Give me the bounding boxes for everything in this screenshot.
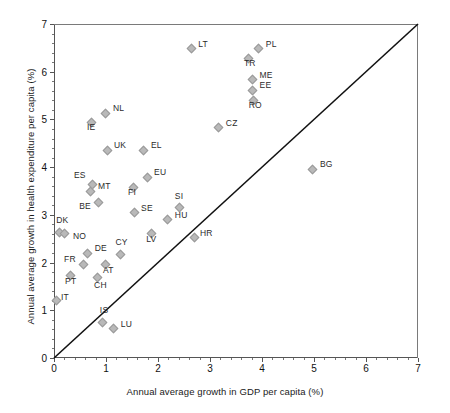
x-minor-tick bbox=[335, 358, 336, 360]
data-point-label-CY: CY bbox=[116, 237, 128, 247]
data-point-label-FR: FR bbox=[64, 254, 76, 264]
scatter-chart-figure: Annual average growth in health expendit… bbox=[0, 0, 450, 413]
x-tick-label-0: 0 bbox=[51, 363, 57, 374]
x-tick-label-4: 4 bbox=[259, 363, 265, 374]
y-tick-label-2: 2 bbox=[41, 257, 47, 268]
data-point-label-LT: LT bbox=[198, 39, 208, 49]
x-minor-tick bbox=[96, 358, 97, 360]
data-point-label-LU: LU bbox=[121, 319, 132, 329]
x-axis-title: Annual average growth in GDP per capita … bbox=[0, 386, 450, 397]
data-point-label-IE: IE bbox=[87, 122, 95, 132]
x-minor-tick bbox=[345, 358, 346, 360]
data-point-label-HR: HR bbox=[200, 228, 213, 238]
x-minor-tick bbox=[356, 358, 357, 360]
data-point-label-DE: DE bbox=[95, 243, 107, 253]
data-point-label-CH: CH bbox=[94, 280, 107, 290]
x-tick-label-3: 3 bbox=[207, 363, 213, 374]
x-tick-label-7: 7 bbox=[415, 363, 421, 374]
data-point-label-NL: NL bbox=[113, 103, 124, 113]
y-tick-label-0: 0 bbox=[41, 353, 47, 364]
x-tick-label-5: 5 bbox=[311, 363, 317, 374]
y-tick-label-5: 5 bbox=[41, 114, 47, 125]
x-minor-tick bbox=[376, 358, 377, 360]
data-point-label-IS: IS bbox=[100, 305, 108, 315]
x-tick-mark bbox=[314, 358, 315, 362]
data-point-label-SI: SI bbox=[175, 191, 183, 201]
data-point-label-EE: EE bbox=[260, 80, 272, 90]
data-point-label-AT: AT bbox=[103, 265, 114, 275]
data-point-label-FI: FI bbox=[128, 187, 136, 197]
x-minor-tick bbox=[85, 358, 86, 360]
x-minor-tick bbox=[137, 358, 138, 360]
x-minor-tick bbox=[387, 358, 388, 360]
data-point-label-ME: ME bbox=[260, 70, 273, 80]
data-point-label-LV: LV bbox=[146, 234, 156, 244]
x-minor-tick bbox=[220, 358, 221, 360]
x-minor-tick bbox=[293, 358, 294, 360]
x-minor-tick bbox=[252, 358, 253, 360]
data-point-label-IT: IT bbox=[61, 292, 69, 302]
data-point-label-NO: NO bbox=[73, 231, 86, 241]
x-minor-tick bbox=[179, 358, 180, 360]
x-minor-tick bbox=[168, 358, 169, 360]
data-point-label-PT: PT bbox=[65, 276, 76, 286]
x-minor-tick bbox=[241, 358, 242, 360]
y-axis-title: Annual average growth in health expendit… bbox=[25, 17, 36, 377]
y-tick-label-4: 4 bbox=[41, 162, 47, 173]
x-minor-tick bbox=[75, 358, 76, 360]
data-point-label-DK: DK bbox=[56, 215, 68, 225]
x-minor-tick bbox=[397, 358, 398, 360]
x-minor-tick bbox=[116, 358, 117, 360]
data-point-label-BE: BE bbox=[79, 201, 91, 211]
x-minor-tick bbox=[304, 358, 305, 360]
x-minor-tick bbox=[64, 358, 65, 360]
y-tick-label-3: 3 bbox=[41, 209, 47, 220]
x-tick-label-2: 2 bbox=[155, 363, 161, 374]
x-minor-tick bbox=[127, 358, 128, 360]
data-point-label-TR: TR bbox=[244, 58, 256, 68]
x-tick-label-6: 6 bbox=[363, 363, 369, 374]
plot-area: 01234567 01234567 LTPLTRMEEERONLIECZUKEL… bbox=[54, 24, 418, 358]
x-minor-tick bbox=[148, 358, 149, 360]
x-tick-mark bbox=[54, 358, 55, 362]
x-tick-mark bbox=[210, 358, 211, 362]
x-minor-tick bbox=[283, 358, 284, 360]
x-tick-label-1: 1 bbox=[103, 363, 109, 374]
data-point-label-PL: PL bbox=[266, 39, 277, 49]
data-point-label-EL: EL bbox=[151, 140, 162, 150]
data-point-label-HU: HU bbox=[175, 210, 188, 220]
data-point-label-RO: RO bbox=[249, 100, 262, 110]
x-minor-tick bbox=[231, 358, 232, 360]
data-point-label-ES: ES bbox=[74, 170, 86, 180]
x-tick-mark bbox=[106, 358, 107, 362]
x-tick-mark bbox=[158, 358, 159, 362]
y-tick-label-7: 7 bbox=[41, 19, 47, 30]
data-point-label-CZ: CZ bbox=[226, 118, 238, 128]
data-point-label-EU: EU bbox=[154, 167, 166, 177]
data-point-label-UK: UK bbox=[114, 140, 126, 150]
data-point-label-BG: BG bbox=[320, 159, 333, 169]
data-point-label-MT: MT bbox=[98, 181, 111, 191]
y-tick-label-6: 6 bbox=[41, 66, 47, 77]
x-tick-mark bbox=[366, 358, 367, 362]
x-tick-mark bbox=[262, 358, 263, 362]
x-minor-tick bbox=[272, 358, 273, 360]
y-tick-label-1: 1 bbox=[41, 305, 47, 316]
data-point-label-SE: SE bbox=[141, 203, 153, 213]
x-minor-tick bbox=[200, 358, 201, 360]
x-minor-tick bbox=[189, 358, 190, 360]
x-tick-mark bbox=[418, 358, 419, 362]
x-minor-tick bbox=[324, 358, 325, 360]
x-minor-tick bbox=[408, 358, 409, 360]
